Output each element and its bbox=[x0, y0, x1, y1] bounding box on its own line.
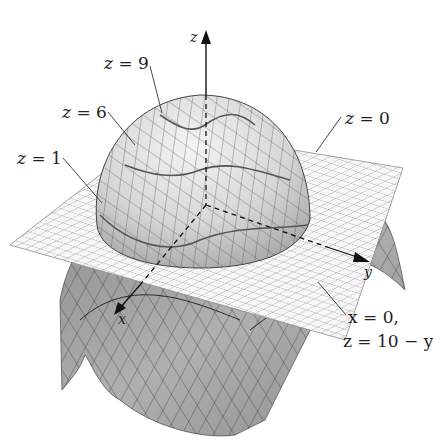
label-z9: z = 9 bbox=[104, 55, 149, 72]
label-z9-var: z bbox=[104, 53, 113, 73]
label-z1-var: z bbox=[17, 148, 26, 168]
label-z1-value: 1 bbox=[51, 148, 62, 168]
y-axis-label: y bbox=[364, 265, 372, 279]
x-axis-label: x bbox=[118, 312, 126, 326]
label-z9-value: 9 bbox=[138, 53, 149, 73]
label-z6-eq: = bbox=[76, 102, 90, 122]
label-z6-value: 6 bbox=[96, 102, 107, 122]
label-z0-var: z bbox=[345, 108, 354, 128]
label-z9-eq: = bbox=[118, 53, 132, 73]
label-z1-eq: = bbox=[31, 148, 45, 168]
label-z6-var: z bbox=[62, 102, 71, 122]
trace-label-line2: z = 10 − y bbox=[343, 333, 433, 350]
label-z6: z = 6 bbox=[62, 104, 107, 121]
label-z0-value: 0 bbox=[379, 108, 390, 128]
z-axis-arrow-icon bbox=[201, 30, 211, 44]
label-z0: z = 0 bbox=[345, 110, 390, 127]
surface-diagram: z = 9 z = 6 z = 1 z = 0 z y x x = 0, z =… bbox=[0, 0, 433, 446]
surface-svg bbox=[0, 0, 433, 446]
label-z1: z = 1 bbox=[17, 150, 62, 167]
trace-label-line1: x = 0, bbox=[348, 309, 399, 326]
z-axis-label: z bbox=[190, 30, 197, 44]
label-z0-eq: = bbox=[359, 108, 373, 128]
